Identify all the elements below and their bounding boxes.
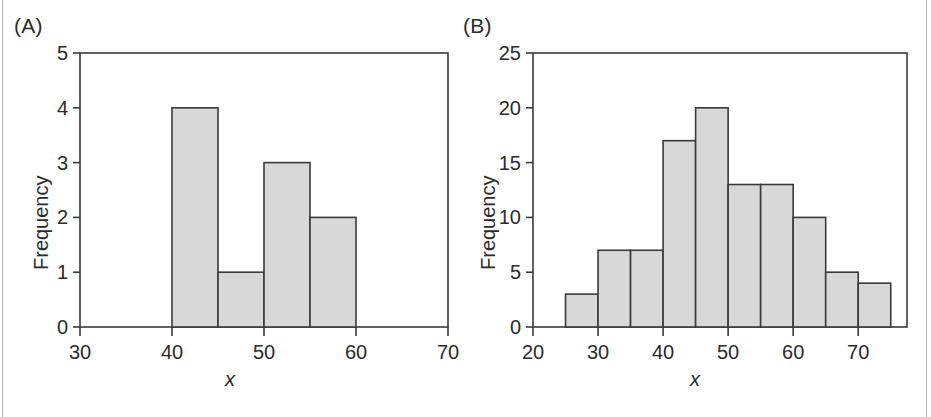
x-tick-label: 60 [782,341,804,363]
histogram-bar [264,163,310,327]
panel-a: (A) Frequency x 0123453040506070 [0,0,460,417]
y-tick-label: 5 [510,261,521,283]
y-tick-label: 4 [57,97,68,119]
histogram-bar [858,283,891,327]
x-tick-label: 70 [847,341,869,363]
panel-b-plot: 0510152025203040506070 [455,0,931,417]
panel-b: (B) Frequency x 0510152025203040506070 [455,0,931,417]
histogram-bar [566,294,599,327]
y-tick-label: 2 [57,206,68,228]
x-tick-label: 50 [253,341,275,363]
histogram-bar [793,217,826,327]
histogram-bar [728,185,761,327]
histogram-bar [172,108,218,327]
x-tick-label: 20 [522,341,544,363]
panel-a-plot: 0123453040506070 [0,0,460,417]
histogram-bar [761,185,794,327]
x-tick-label: 40 [652,341,674,363]
y-tick-label: 5 [57,42,68,64]
x-tick-label: 30 [69,341,91,363]
x-tick-label: 30 [587,341,609,363]
x-tick-label: 40 [161,341,183,363]
y-tick-label: 3 [57,152,68,174]
x-tick-label: 60 [345,341,367,363]
y-tick-label: 25 [499,42,521,64]
histogram-bar [631,250,664,327]
histogram-bar [598,250,631,327]
histogram-bar [826,272,859,327]
y-tick-label: 20 [499,97,521,119]
histogram-bar [663,141,696,327]
y-tick-label: 1 [57,261,68,283]
y-tick-label: 0 [57,316,68,338]
histogram-bar [218,272,264,327]
x-tick-label: 50 [717,341,739,363]
histogram-bar [696,108,729,327]
y-tick-label: 0 [510,316,521,338]
y-tick-label: 10 [499,206,521,228]
y-tick-label: 15 [499,152,521,174]
histogram-figure: (A) Frequency x 0123453040506070 (B) Fre… [0,0,931,417]
histogram-bar [310,217,356,327]
